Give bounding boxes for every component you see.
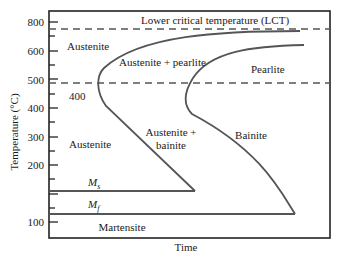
y-tick-800: 800: [28, 16, 45, 28]
y-axis-label: Temperature (°C): [8, 93, 21, 171]
y-tick-200: 200: [28, 159, 45, 171]
region-martensite: Martensite: [98, 221, 145, 233]
label-400: 400: [69, 90, 86, 102]
region-austenite-pearlite: Austenite + pearlite: [119, 56, 206, 68]
ms-label: Ms: [87, 176, 100, 191]
y-tick-300: 300: [28, 131, 45, 143]
region-austenite-top: Austenite: [67, 40, 109, 52]
region-austenite-mid: Austenite: [69, 138, 111, 150]
ttt-diagram: 800 600 500 400 300 200 100 Temperature …: [0, 0, 342, 263]
y-tick-600: 600: [28, 45, 45, 57]
region-pearlite: Pearlite: [251, 63, 285, 75]
lct-label: Lower critical temperature (LCT): [141, 14, 289, 27]
region-bainite: Bainite: [235, 129, 267, 141]
region-austenite-bainite-1: Austenite +: [145, 126, 196, 138]
mf-label: Mf: [87, 198, 101, 213]
start-curve: [98, 31, 300, 191]
x-axis-label: Time: [175, 241, 198, 253]
y-tick-500: 500: [28, 74, 45, 86]
region-austenite-bainite-2: bainite: [156, 139, 186, 151]
y-tick-100: 100: [28, 216, 45, 228]
y-tick-400: 400: [28, 102, 45, 114]
y-ticks: [49, 22, 58, 222]
